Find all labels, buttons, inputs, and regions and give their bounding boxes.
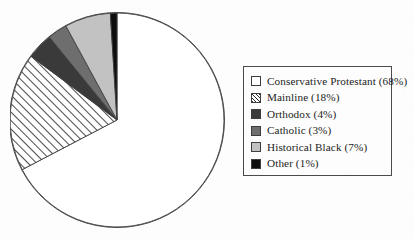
swatch-mainline-icon — [251, 93, 261, 103]
pie-svg — [10, 10, 225, 232]
legend-label-orthodox: Orthodox (4%) — [267, 109, 336, 120]
pie-slice-group — [10, 13, 224, 227]
swatch-other-icon — [251, 159, 261, 169]
legend-item-conservative-protestant[interactable]: Conservative Protestant (68%) — [251, 73, 391, 90]
pie-chart-graphic — [10, 10, 225, 232]
swatch-catholic-icon — [251, 126, 261, 136]
legend-label-catholic: Catholic (3%) — [267, 125, 331, 136]
pie-chart-figure: Conservative Protestant (68%) Mainline (… — [0, 0, 414, 241]
legend-item-orthodox[interactable]: Orthodox (4%) — [251, 106, 391, 123]
legend-item-other[interactable]: Other (1%) — [251, 156, 391, 173]
legend-item-mainline[interactable]: Mainline (18%) — [251, 90, 391, 107]
swatch-conservative-protestant-icon — [251, 76, 261, 86]
swatch-historical-black-icon — [251, 142, 261, 152]
legend-label-mainline: Mainline (18%) — [267, 92, 340, 103]
legend-label-conservative-protestant: Conservative Protestant (68%) — [267, 76, 407, 87]
chart-legend: Conservative Protestant (68%) Mainline (… — [243, 66, 392, 176]
swatch-orthodox-icon — [251, 109, 261, 119]
legend-label-other: Other (1%) — [267, 158, 319, 169]
legend-label-historical-black: Historical Black (7%) — [267, 142, 367, 153]
legend-item-catholic[interactable]: Catholic (3%) — [251, 123, 391, 140]
legend-item-historical-black[interactable]: Historical Black (7%) — [251, 139, 391, 156]
